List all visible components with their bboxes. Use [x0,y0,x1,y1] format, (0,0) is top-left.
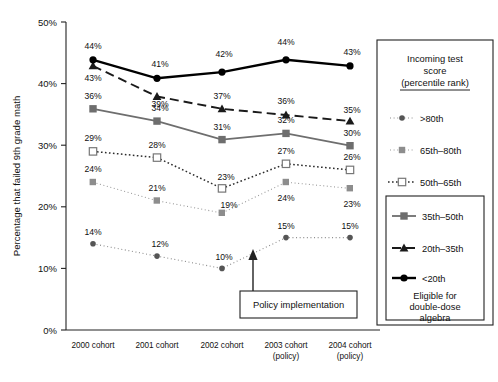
data-point [218,69,225,76]
data-label: 44% [277,37,295,47]
data-label: 36% [84,91,102,101]
data-label: 30% [343,128,361,138]
data-label: 27% [277,146,295,156]
data-label: 41% [151,59,169,69]
data-point [218,136,225,143]
data-point [89,105,96,112]
y-tick-label-0: 0% [43,325,57,336]
data-label: 23% [217,172,235,182]
x-tick-label-2002: 2002 cohort [200,341,244,350]
annotation-label: Policy implementation [253,299,344,310]
data-label: 19% [220,200,238,210]
x-tick-label-2001: 2001 cohort [135,341,179,350]
data-point [153,154,160,161]
legend-title-line-3: (percentile rank) [401,77,469,88]
x-tick-label-2000: 2000 cohort [71,341,115,350]
legend-group-note-line-3: algebra [419,313,451,323]
legend-item-50th-65th[interactable]: 50th–65th [388,178,461,188]
data-point [154,253,160,259]
legend: Incoming test score (percentile rank) >8… [377,40,493,325]
data-label: 36% [277,96,295,106]
data-label: 26% [343,152,361,162]
data-label: 14% [84,227,102,237]
data-point [218,185,225,192]
x-tick-label-2003: 2003 cohort [264,341,308,350]
data-point [89,148,96,155]
chart-figure: 50% 40% 30% 20% 10% 0% Percentage that f… [0,0,498,382]
data-label: 21% [148,183,166,193]
data-label: 15% [277,221,295,231]
data-point [282,130,289,137]
y-tick-label-50: 50% [38,17,58,28]
legend-marker-circle-icon [399,115,405,121]
x-tick-label-2004-sub: (policy) [337,352,364,361]
legend-title-line-1: Incoming test [407,53,463,64]
y-axis-title: Percentage that failed 9th grade math [11,96,22,257]
data-label: 37% [213,91,231,101]
data-label: 43% [343,47,361,57]
data-point [347,185,353,191]
legend-label: 35th–50th [422,212,463,222]
data-point [282,56,289,63]
data-point [346,166,353,173]
data-point [90,179,96,185]
data-label: 10% [215,252,233,262]
data-point [90,241,96,247]
legend-marker-circle-icon [400,274,407,281]
legend-group-note-line-1: Eligible for [413,291,456,301]
legend-label: <20th [422,274,446,284]
data-point [347,235,353,241]
chart-svg: 50% 40% 30% 20% 10% 0% Percentage that f… [0,0,498,382]
legend-label: 65th–80th [420,146,461,156]
legend-label: >80th [420,114,444,124]
x-tick-label-2003-sub: (policy) [273,352,300,361]
data-label: 35% [343,105,361,115]
legend-label: 50th–65th [420,178,461,188]
x-tick-label-2004: 2004 cohort [328,341,372,350]
data-label: 23% [343,199,361,209]
y-tick-label-20: 20% [38,201,58,212]
legend-group-note-line-2: double-dose [409,302,460,312]
data-label: 28% [148,140,166,150]
data-label: 15% [341,221,359,231]
data-label: 44% [84,41,102,51]
data-point [219,210,225,216]
data-point [282,160,289,167]
data-label: 39% [151,99,169,109]
data-point [283,179,289,185]
data-point [283,235,289,241]
data-label: 29% [84,133,102,143]
data-point [219,266,225,272]
data-point [153,117,160,124]
data-label: 24% [84,164,102,174]
y-tick-label-40: 40% [38,78,58,89]
data-label: 43% [84,73,102,83]
legend-marker-square-filled-icon [399,147,405,153]
data-point [346,142,353,149]
legend-marker-square-filled-icon [400,212,407,219]
data-label: 24% [277,193,295,203]
y-tick-label-10: 10% [38,263,58,274]
data-point [153,75,160,82]
data-point [346,62,353,69]
legend-label: 20th–35th [422,244,463,254]
y-tick-label-30: 30% [38,140,58,151]
data-label: 12% [151,239,169,249]
data-point [154,197,160,203]
data-label: 42% [215,49,233,59]
legend-marker-square-open-icon [398,178,405,185]
data-point [89,56,96,63]
legend-title-line-2: score [424,65,447,76]
data-label: 31% [213,122,231,132]
